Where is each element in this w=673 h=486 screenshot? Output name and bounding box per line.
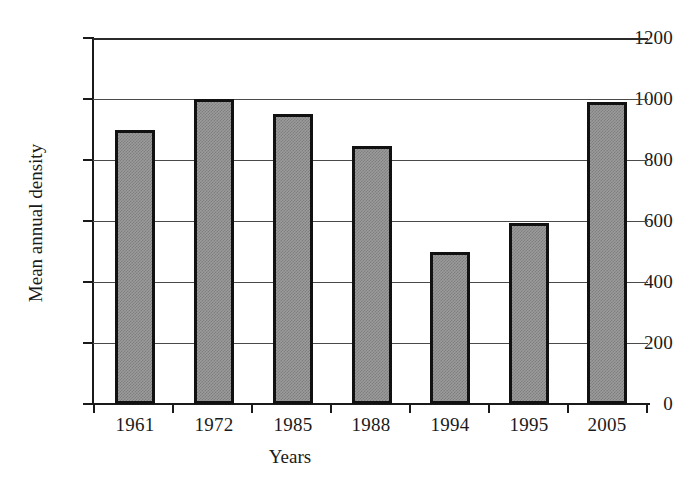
bar-2005[interactable] (587, 102, 627, 404)
x-tick-label-1994: 1994 (405, 414, 495, 436)
x-tick-mark-0 (93, 404, 95, 413)
x-tick-label-1972: 1972 (169, 414, 259, 436)
y-axis-title: Mean annual density (25, 103, 47, 343)
bar-1972[interactable] (194, 99, 234, 404)
x-tick-mark-5 (488, 404, 490, 413)
x-tick-label-1961: 1961 (90, 414, 180, 436)
x-axis-title: Years (200, 446, 380, 468)
x-tick-label-1988: 1988 (326, 414, 416, 436)
bar-chart-figure: 1200 1000 800 600 400 200 0 1961 197 (0, 0, 673, 486)
bar-1994[interactable] (430, 252, 470, 405)
x-tick-mark-7 (646, 404, 648, 413)
plot-area (93, 38, 648, 404)
gridline-1000 (93, 99, 648, 100)
x-tick-label-1985: 1985 (248, 414, 338, 436)
x-tick-mark-4 (409, 404, 411, 413)
x-tick-mark-6 (567, 404, 569, 413)
x-tick-mark-1 (172, 404, 174, 413)
x-tick-mark-3 (330, 404, 332, 413)
bar-1985[interactable] (273, 114, 313, 404)
bar-1961[interactable] (115, 130, 155, 405)
bar-1995[interactable] (509, 223, 549, 405)
x-tick-label-2005: 2005 (562, 414, 652, 436)
bar-1988[interactable] (352, 146, 392, 404)
gridline-1200 (93, 38, 648, 40)
x-tick-label-1995: 1995 (484, 414, 574, 436)
x-tick-mark-2 (251, 404, 253, 413)
